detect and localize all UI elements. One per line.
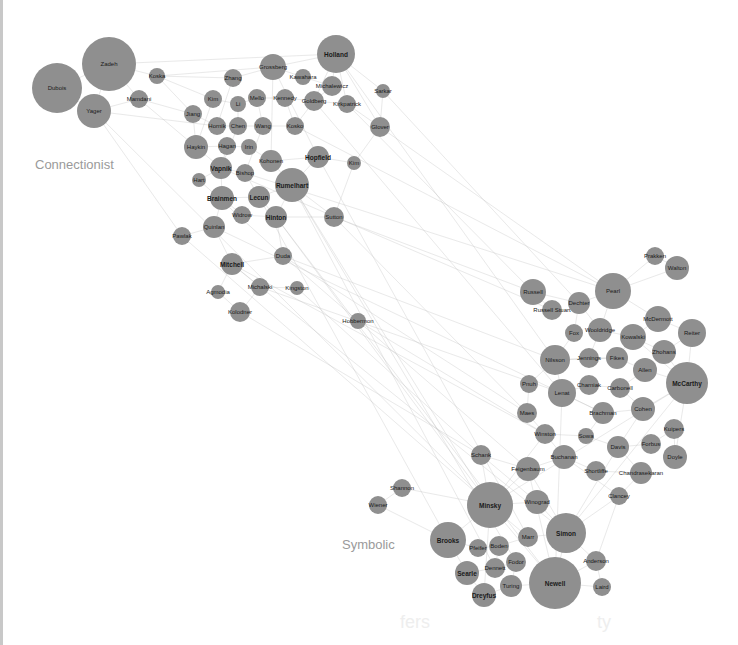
node-zhohans[interactable]: Zhohans bbox=[652, 340, 676, 364]
node-pearl[interactable]: Pearl bbox=[595, 273, 631, 309]
node-kosko[interactable]: Kosko bbox=[286, 117, 304, 135]
node-kim[interactable]: Kim bbox=[204, 90, 222, 108]
node-wiener[interactable]: Wiener bbox=[368, 496, 387, 514]
node-zadeh[interactable]: Zadeh bbox=[82, 37, 136, 91]
node-li[interactable]: Li bbox=[230, 96, 246, 112]
node-marr[interactable]: Marr bbox=[518, 527, 538, 547]
node-haykin[interactable]: Haykin bbox=[184, 135, 208, 159]
node-boden[interactable]: Boden bbox=[489, 536, 509, 556]
node-grossberg[interactable]: Grossberg bbox=[259, 54, 287, 80]
node-searle[interactable]: Searle bbox=[455, 561, 479, 585]
node-nilsson[interactable]: Nilsson bbox=[540, 345, 570, 375]
node-michalewicz[interactable]: Michalewicz bbox=[316, 76, 348, 96]
node-clancey[interactable]: Clancey bbox=[608, 487, 630, 505]
node-widrow[interactable]: Widrow bbox=[232, 206, 253, 224]
node-pnuh[interactable]: Pnuh bbox=[520, 375, 538, 393]
node-kowalski[interactable]: Kowalski bbox=[620, 324, 646, 350]
node-mcdermott[interactable]: McDermott bbox=[643, 306, 673, 332]
node-dechter[interactable]: Dechter bbox=[568, 292, 590, 314]
node-bishop[interactable]: Bishop bbox=[236, 164, 255, 182]
node-dubois[interactable]: Dubois bbox=[32, 63, 82, 113]
node-davis[interactable]: Davis bbox=[607, 436, 629, 458]
node-turing[interactable]: Turing bbox=[500, 575, 522, 597]
node-label: Hobbermon bbox=[342, 318, 373, 324]
node-quinlan[interactable]: Quinlan bbox=[203, 216, 225, 238]
node-kim2[interactable]: Kim bbox=[347, 156, 361, 170]
node-chandrasekaran[interactable]: Chandrasekaran bbox=[619, 462, 663, 484]
node-charniak[interactable]: Charniak bbox=[577, 375, 602, 395]
node-kingston[interactable]: Kingston bbox=[285, 281, 308, 295]
node-fox[interactable]: Fox bbox=[565, 324, 583, 342]
node-holland[interactable]: Holland bbox=[317, 35, 355, 73]
node-schank[interactable]: Schank bbox=[471, 445, 492, 465]
node-forbus[interactable]: Forbus bbox=[641, 434, 661, 454]
node-mitchell[interactable]: Mitchell bbox=[220, 253, 244, 275]
node-mello[interactable]: Mello bbox=[248, 89, 266, 107]
node-mamdani[interactable]: Mamdani bbox=[127, 90, 152, 108]
node-pfeifer[interactable]: Pfeifer bbox=[469, 539, 487, 557]
node-chen[interactable]: Chen bbox=[229, 117, 247, 135]
node-dreyfus[interactable]: Dreyfus bbox=[472, 583, 497, 607]
node-mccarthy[interactable]: McCarthy bbox=[666, 362, 708, 404]
node-kolodner[interactable]: Kolodner bbox=[228, 302, 252, 322]
node-cohen[interactable]: Cohen bbox=[631, 397, 655, 421]
node-russell[interactable]: Russell bbox=[520, 279, 546, 305]
node-winograd[interactable]: Winograd bbox=[524, 490, 550, 514]
node-kawahara[interactable]: Kawahara bbox=[289, 69, 317, 85]
node-agmodia[interactable]: Agmodia bbox=[206, 285, 230, 299]
node-newell[interactable]: Newell bbox=[529, 557, 581, 609]
edge bbox=[109, 54, 336, 64]
node-zhang[interactable]: Zhang bbox=[224, 69, 242, 87]
edge bbox=[94, 111, 182, 236]
node-label: Anderson bbox=[583, 558, 609, 564]
node-fikes[interactable]: Fikes bbox=[606, 347, 628, 369]
node-label: Russell Stuart bbox=[533, 307, 571, 313]
node-kuipers[interactable]: Kuipers bbox=[664, 419, 684, 439]
node-kirkpatrick[interactable]: Kirkpatrick bbox=[333, 95, 362, 113]
node-jiang[interactable]: Jiang bbox=[184, 105, 202, 123]
node-lenat[interactable]: Lenat bbox=[548, 379, 576, 407]
node-laird[interactable]: Laird bbox=[593, 578, 611, 596]
node-allen[interactable]: Allen bbox=[633, 358, 657, 382]
node-sowa[interactable]: Sowa bbox=[578, 428, 594, 444]
node-hornik[interactable]: Hornik bbox=[208, 117, 227, 135]
node-shortliffe[interactable]: Shortliffe bbox=[584, 461, 608, 481]
node-carbonell[interactable]: Carbonell bbox=[607, 378, 633, 398]
node-fodor[interactable]: Fodor bbox=[506, 552, 526, 572]
node-brooks[interactable]: Brooks bbox=[430, 522, 466, 558]
node-doyle[interactable]: Doyle bbox=[663, 445, 687, 469]
node-vapnik[interactable]: Vapnik bbox=[210, 157, 232, 179]
node-reiter[interactable]: Reiter bbox=[678, 319, 706, 347]
node-koska[interactable]: Koska bbox=[149, 68, 166, 84]
node-lecun[interactable]: Lecun bbox=[248, 186, 270, 208]
node-walton[interactable]: Walton bbox=[665, 256, 689, 280]
node-kennedy[interactable]: Kennedy bbox=[273, 89, 297, 107]
node-hopfield[interactable]: Hopfield bbox=[305, 146, 331, 168]
node-wang[interactable]: Wang bbox=[254, 117, 272, 135]
node-hart[interactable]: Hart bbox=[192, 173, 206, 187]
node-hinton[interactable]: Hinton bbox=[265, 206, 287, 228]
node-irin[interactable]: Irin bbox=[241, 139, 257, 155]
node-sutton[interactable]: Sutton bbox=[324, 207, 344, 227]
node-buchanan[interactable]: Buchanan bbox=[550, 445, 577, 469]
node-dennett[interactable]: Dennett bbox=[484, 558, 505, 578]
node-jennings[interactable]: Jennings bbox=[577, 348, 601, 368]
node-minsky[interactable]: Minsky bbox=[467, 482, 513, 528]
node-brachman[interactable]: Brachman bbox=[589, 402, 616, 424]
node-duda[interactable]: Duda bbox=[274, 247, 292, 265]
node-simon[interactable]: Simon bbox=[546, 513, 586, 553]
node-rumelhart[interactable]: Rumelhart bbox=[275, 168, 309, 202]
node-anderson[interactable]: Anderson bbox=[583, 551, 609, 571]
node-hagan[interactable]: Hagan bbox=[218, 137, 236, 155]
edge bbox=[271, 67, 273, 161]
node-kohonen[interactable]: Kohonen bbox=[259, 150, 283, 172]
node-glover[interactable]: Glover bbox=[370, 117, 390, 137]
node-brainmen[interactable]: Brainmen bbox=[207, 186, 237, 210]
node-maes[interactable]: Maes bbox=[517, 403, 537, 423]
node-feigenbaum[interactable]: Feigenbaum bbox=[511, 457, 544, 481]
node-yager[interactable]: Yager bbox=[77, 94, 111, 128]
node-label: Winston bbox=[534, 431, 556, 437]
node-wooldridge[interactable]: Wooldridge bbox=[585, 318, 616, 342]
edge bbox=[380, 127, 613, 291]
node-winston[interactable]: Winston bbox=[534, 424, 556, 444]
